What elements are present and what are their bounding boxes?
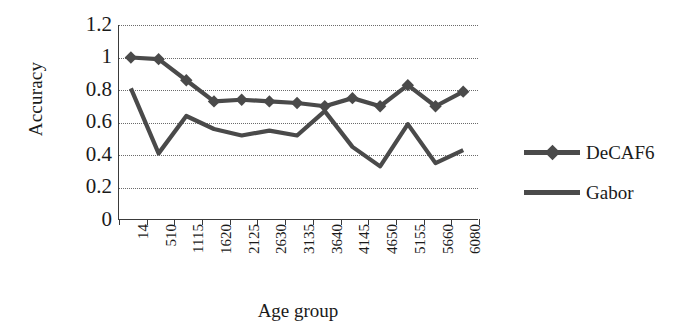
data-point-marker xyxy=(125,51,137,63)
data-point-marker xyxy=(235,94,247,106)
y-tick-label: 0.8 xyxy=(42,79,112,100)
y-tick-label: 0 xyxy=(42,209,112,230)
data-point-marker xyxy=(263,95,275,107)
x-tick-label: 5155 xyxy=(413,224,428,284)
data-point-marker xyxy=(346,92,358,104)
x-tick-label: 2125 xyxy=(247,224,262,284)
legend-marker-diamond-icon xyxy=(524,144,580,160)
x-axis-tick-labels: 1451011151620212526303135364041454650515… xyxy=(118,222,478,288)
y-tick-label: 0.2 xyxy=(42,176,112,197)
y-tick-label: 0.6 xyxy=(42,111,112,132)
chart-figure: Accuracy 1.2 1 0.8 0.6 0.4 0.2 0 1451011… xyxy=(0,0,680,335)
legend-label: Gabor xyxy=(586,183,633,202)
y-axis-tick-labels: 1.2 1 0.8 0.6 0.4 0.2 0 xyxy=(38,0,112,335)
legend-item-gabor: Gabor xyxy=(524,172,674,212)
plot-area xyxy=(118,25,478,220)
x-axis-title: Age group xyxy=(118,300,478,322)
x-tick-label: 14 xyxy=(136,224,151,284)
x-tick-label: 4650 xyxy=(385,224,400,284)
x-tick-label: 6080 xyxy=(468,224,483,284)
data-point-marker xyxy=(291,97,303,109)
legend-label: DeCAF6 xyxy=(586,143,655,162)
chart-legend: DeCAF6 Gabor xyxy=(524,132,674,212)
series-lines xyxy=(119,25,479,220)
x-tick-label: 1620 xyxy=(219,224,234,284)
x-tick-label: 3640 xyxy=(330,224,345,284)
legend-item-decaf6: DeCAF6 xyxy=(524,132,674,172)
x-tick-label: 1115 xyxy=(191,224,206,284)
legend-marker-line-icon xyxy=(524,184,580,200)
y-tick-label: 0.4 xyxy=(42,144,112,165)
x-tick-label: 2630 xyxy=(274,224,289,284)
y-tick-label: 1 xyxy=(42,46,112,67)
x-tick-label: 510 xyxy=(164,224,179,284)
x-tick-label: 4145 xyxy=(357,224,372,284)
x-tick-label: 3135 xyxy=(302,224,317,284)
x-tick-label: 5660 xyxy=(441,224,456,284)
y-tick-label: 1.2 xyxy=(42,14,112,35)
